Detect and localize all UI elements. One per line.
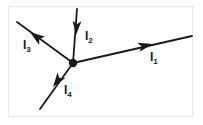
junction-node <box>69 59 77 67</box>
branch-I2-line <box>73 9 77 63</box>
current-label-I3: I3 <box>23 39 31 54</box>
branch-I2 <box>72 9 82 63</box>
current-label-I2-subscript: 2 <box>88 36 92 45</box>
current-label-I1: I1 <box>150 51 158 66</box>
current-label-I3-subscript: 3 <box>26 45 30 54</box>
current-label-I4-subscript: 4 <box>67 90 71 99</box>
current-label-I4: I4 <box>64 84 72 99</box>
branch-I4-arrowhead <box>49 72 65 89</box>
figure-root: I1 I2 I3 I4 <box>0 0 203 125</box>
current-label-I2: I2 <box>85 30 93 45</box>
junction-diagram <box>0 0 203 125</box>
current-label-I1-subscript: 1 <box>153 57 157 66</box>
